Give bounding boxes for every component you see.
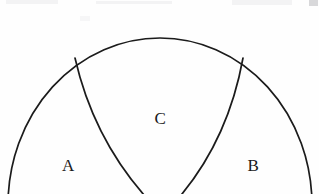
region-label-b: B (248, 157, 259, 174)
figure-page: A C B (0, 0, 319, 194)
right-divider-arc (163, 58, 243, 194)
left-divider-arc (75, 58, 163, 194)
region-label-a: A (62, 157, 74, 174)
partitioned-ellipse-diagram (0, 0, 319, 194)
region-label-c: C (155, 110, 166, 127)
